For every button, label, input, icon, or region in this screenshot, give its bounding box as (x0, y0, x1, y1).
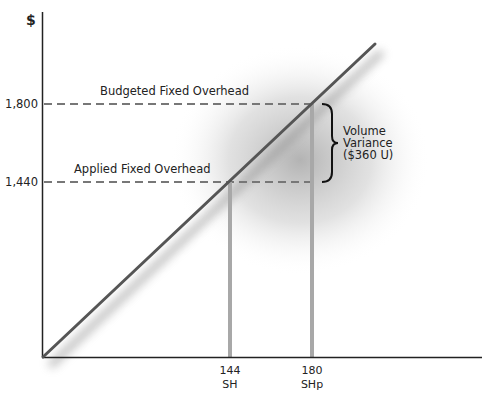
variance-label-line3: ($360 U) (343, 149, 393, 162)
y-tick-1440: 1,440 (2, 175, 38, 189)
applied-label: Applied Fixed Overhead (74, 163, 211, 176)
volume-variance-chart (0, 0, 482, 395)
x-label-sh: SH (210, 378, 250, 392)
budgeted-label: Budgeted Fixed Overhead (100, 85, 249, 98)
x-tick-144: 144 (210, 364, 250, 378)
y-axis-label: $ (26, 14, 36, 27)
x-tick-180: 180 (292, 364, 332, 378)
x-label-shp: SHp (292, 378, 332, 392)
y-tick-1800: 1,800 (2, 97, 38, 111)
